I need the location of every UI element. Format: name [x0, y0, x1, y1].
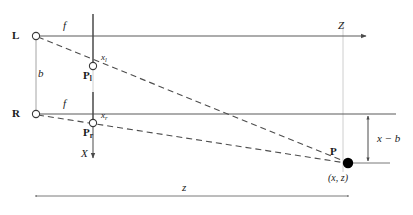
right-image-point-marker: [89, 119, 96, 126]
offset-dimension-label: x − b: [377, 133, 400, 144]
stereo-geometry-figure: L R f f b Pl Pr xl xr Z X P (x, z) z x −…: [0, 0, 413, 215]
left-camera-label: L: [12, 30, 19, 41]
left-projection-ray: [38, 37, 346, 162]
focal-length-right-label: f: [63, 98, 66, 109]
right-disparity-label: xr: [101, 111, 108, 121]
left-camera-center-marker: [32, 32, 39, 39]
left-disparity-subscript: l: [105, 56, 107, 63]
right-disparity-subscript: r: [105, 114, 108, 121]
diagram-canvas: [0, 0, 413, 215]
left-disparity-label: xl: [101, 53, 107, 63]
right-camera-center-marker: [32, 110, 39, 117]
world-point-coordinates-label: (x, z): [328, 173, 348, 183]
world-point-label: P: [330, 146, 337, 157]
left-image-point-label: Pl: [83, 70, 92, 82]
right-camera-label: R: [12, 108, 20, 119]
right-image-point-name: P: [83, 126, 90, 138]
z-axis-label: Z: [338, 20, 344, 31]
left-image-point-marker: [89, 62, 96, 69]
right-image-point-subscript: r: [90, 131, 93, 140]
depth-dimension-label: z: [182, 182, 186, 193]
x-axis-label: X: [81, 148, 88, 159]
right-image-point-label: Pr: [83, 127, 93, 139]
baseline-label: b: [38, 68, 44, 79]
left-image-point-name: P: [83, 69, 90, 81]
world-point-marker: [343, 158, 353, 168]
focal-length-left-label: f: [63, 20, 66, 31]
left-image-point-subscript: l: [90, 74, 92, 83]
